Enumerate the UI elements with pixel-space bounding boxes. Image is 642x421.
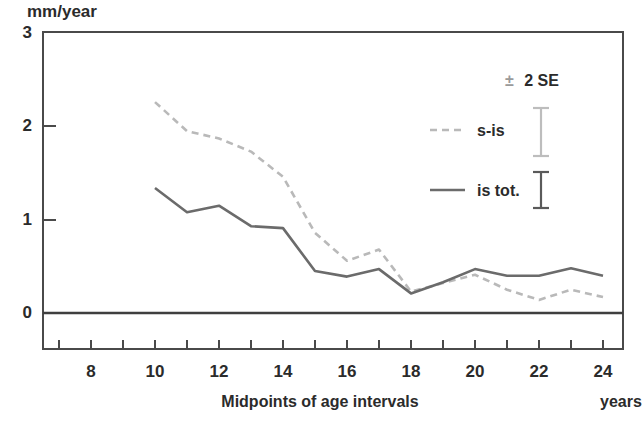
series-line-is-tot	[155, 188, 603, 293]
legend-errorbar-dark	[533, 172, 549, 208]
legend-errorbar-light	[533, 108, 549, 156]
plot-frame	[43, 32, 623, 349]
y-axis-ticks	[43, 126, 56, 220]
x-axis-ticks	[59, 340, 603, 349]
